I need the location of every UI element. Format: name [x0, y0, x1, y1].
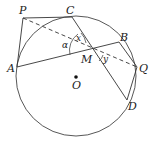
segment-pc	[23, 17, 72, 18]
segment-pa	[17, 18, 23, 67]
geometry-diagram: P C B A M Q D O α x y	[0, 0, 154, 141]
angle-label-x: x	[76, 33, 81, 43]
label-c: C	[66, 4, 75, 17]
angle-label-y: y	[102, 54, 109, 64]
label-p: P	[18, 4, 27, 17]
label-b: B	[119, 31, 128, 44]
angle-label-alpha: α	[62, 40, 68, 50]
label-a: A	[6, 62, 15, 75]
label-m: M	[80, 53, 93, 66]
label-q: Q	[139, 62, 148, 75]
label-o: O	[72, 79, 81, 92]
label-d: D	[127, 100, 137, 113]
